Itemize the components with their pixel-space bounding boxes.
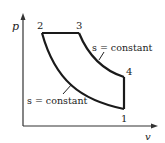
y-axis-label: p <box>12 20 19 33</box>
pv-diagram: p v 2 3 4 1 s = constant s = constant <box>0 0 165 143</box>
point-label-1: 1 <box>121 113 127 124</box>
process-3-4-isentropic <box>79 33 124 77</box>
point-label-4: 4 <box>126 66 132 77</box>
upper-annotation-leader <box>99 52 104 60</box>
lower-annotation-leader <box>63 84 72 94</box>
upper-isentropic-annotation: s = constant <box>92 42 153 53</box>
lower-isentropic-annotation: s = constant <box>27 95 88 106</box>
point-label-2: 2 <box>37 20 43 31</box>
pv-diagram-svg: p v 2 3 4 1 s = constant s = constant <box>0 0 165 143</box>
x-axis-arrow-icon <box>151 124 158 129</box>
x-axis-label: v <box>145 131 151 142</box>
y-axis-arrow-icon <box>21 13 26 20</box>
point-label-3: 3 <box>76 20 82 31</box>
